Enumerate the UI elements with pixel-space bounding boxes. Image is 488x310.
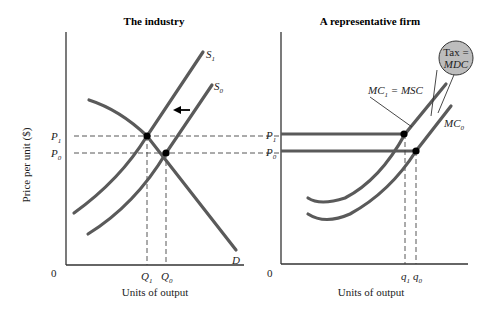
q1-tick-label: Q1 xyxy=(141,270,152,285)
p1-tick-label: P1 xyxy=(50,130,61,145)
tax-bubble: Tax = MDC xyxy=(431,41,473,116)
right-origin-label: 0 xyxy=(267,267,273,279)
firm-point-0 xyxy=(412,147,419,154)
shift-arrow-icon xyxy=(173,106,190,114)
firm-point-1 xyxy=(400,130,407,137)
firm-p1-tick-label: P1 xyxy=(265,129,276,144)
q0-firm-tick-label: q0 xyxy=(413,270,423,285)
q1-firm-tick-label: q1 xyxy=(401,270,410,285)
tax-label: Tax = xyxy=(443,46,468,58)
diagram-canvas: The industry Price per unit ($) S1 S0 D … xyxy=(0,0,488,310)
right-panel-title: A representative firm xyxy=(320,15,420,27)
y-axis-label: Price per unit ($) xyxy=(20,127,33,202)
equilibrium-point-0 xyxy=(162,149,169,156)
left-x-axis-label: Units of output xyxy=(122,286,189,298)
mc1-leader-line xyxy=(370,97,412,127)
mc0-label: MC0 xyxy=(443,117,465,132)
firm-p0-tick-label: P0 xyxy=(265,146,277,161)
demand-label: D xyxy=(231,254,240,266)
mc1-label: MC1 = MSC xyxy=(367,84,424,99)
equilibrium-point-1 xyxy=(143,132,150,139)
left-panel-title: The industry xyxy=(124,15,185,27)
left-origin-label: 0 xyxy=(51,267,57,279)
q0-tick-label: Q0 xyxy=(161,270,173,285)
right-x-axis-label: Units of output xyxy=(338,286,405,298)
p0-tick-label: P0 xyxy=(50,147,62,162)
s0-label: S0 xyxy=(214,80,224,95)
mdc-label: MDC xyxy=(443,58,469,70)
s1-label: S1 xyxy=(206,48,215,63)
demand-curve xyxy=(89,100,236,250)
